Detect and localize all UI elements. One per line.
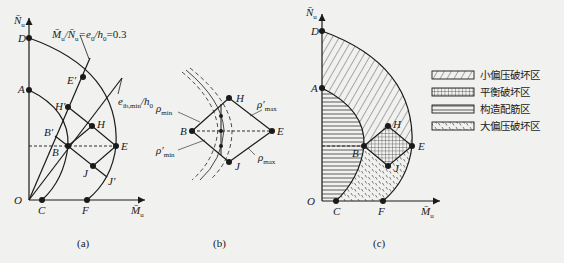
svg-text:小偏压破坏区: 小偏压破坏区: [480, 69, 540, 81]
point-label-E-b: E: [276, 125, 284, 137]
point-label-F-c: F: [377, 205, 385, 217]
ratio-annotation: M̄u/N̄u=e0/h0=0.3: [51, 28, 127, 43]
point-label-B: B: [52, 146, 59, 158]
point-label-J: J: [83, 167, 89, 179]
panel-c: N̄u D A H B E J O C F M̄u (c): [305, 6, 440, 250]
caption-a: (a): [77, 237, 90, 250]
y-axis-label: N̄u: [13, 14, 25, 29]
point-label-E: E: [120, 140, 128, 152]
point-label-H-c: H: [392, 118, 402, 130]
legend-item-small-eccentric: 小偏压破坏区: [432, 69, 540, 81]
svg-text:构造配筋区: 构造配筋区: [480, 103, 530, 115]
rho-min-prime-label: ρ′min: [155, 144, 175, 159]
panel-a-labels: N̄u M̄u/N̄u=e0/h0=0.3 eib,min/h0 D E′ A …: [13, 14, 154, 250]
point-label-C: C: [38, 204, 46, 216]
legend: 小偏压破坏区 平衡破坏区 构造配筋区 大偏压破坏区: [432, 69, 540, 132]
point-label-H-b: H: [235, 92, 245, 104]
point-label-Ep: E′: [66, 74, 77, 86]
point-label-B-c: B: [352, 147, 359, 159]
point-label-H: H: [96, 118, 106, 130]
legend-item-construction: 构造配筋区: [432, 103, 530, 115]
point-label-Jp: J′: [108, 175, 116, 187]
x-axis-label: M̄u: [130, 204, 144, 219]
point-label-A: A: [17, 83, 25, 95]
figure-canvas: N̄u M̄u/N̄u=e0/h0=0.3 eib,min/h0 D E′ A …: [0, 0, 564, 263]
point-label-C-c: C: [333, 205, 341, 217]
rho-max-label: ρmax: [257, 151, 276, 166]
svg-text:平衡破坏区: 平衡破坏区: [480, 86, 530, 98]
point-label-Bp: B′: [44, 126, 54, 138]
legend-item-balance: 平衡破坏区: [432, 86, 530, 98]
legend-item-large-eccentric: 大偏压破坏区: [432, 120, 540, 132]
point-label-B-b: B: [180, 125, 187, 137]
point-label-Hp: H′: [54, 100, 66, 112]
panel-a-points: [26, 35, 119, 203]
point-label-O-c: O: [307, 195, 315, 207]
panel-b: [178, 68, 272, 180]
point-label-D-c: D: [310, 25, 319, 37]
rho-min-label: ρmin: [155, 102, 173, 117]
point-label-E-c: E: [417, 140, 425, 152]
caption-b: (b): [213, 237, 226, 250]
svg-text:大偏压破坏区: 大偏压破坏区: [480, 120, 540, 132]
point-label-D: D: [17, 32, 26, 44]
point-label-A-c: A: [310, 82, 318, 94]
y-axis-label-c: N̄u: [305, 6, 317, 21]
x-axis-label-c: M̄u: [420, 205, 434, 220]
point-label-J-b: J: [235, 160, 241, 172]
point-label-O: O: [14, 194, 22, 206]
caption-c: (c): [373, 237, 386, 250]
eib-annotation: eib,min/h0: [118, 95, 154, 110]
rho-max-prime-label: ρ′max: [256, 98, 277, 113]
point-label-F: F: [81, 204, 89, 216]
